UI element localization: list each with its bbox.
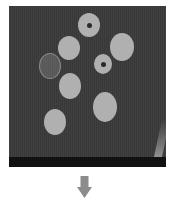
- disc-photo: [9, 6, 166, 167]
- middle-disc-with-hole: [94, 54, 112, 74]
- upper-left-disc: [58, 36, 80, 60]
- arrow-down-icon: [77, 176, 92, 198]
- lower-right-disc: [93, 92, 117, 122]
- disc-hole: [87, 23, 92, 28]
- top-disc-with-hole: [78, 13, 100, 37]
- shadow-band: [9, 157, 166, 167]
- disc-hole: [101, 62, 106, 67]
- middle-left-disc: [59, 73, 81, 99]
- faint-coin: [39, 53, 61, 79]
- bottom-left-disc: [44, 109, 66, 135]
- right-large-disc: [110, 33, 134, 61]
